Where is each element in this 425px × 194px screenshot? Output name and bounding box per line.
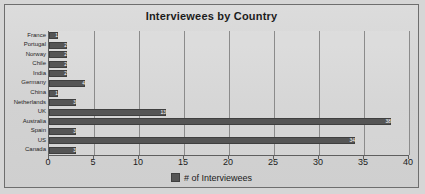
- bar-value-label: 1: [49, 90, 59, 97]
- category-label: UK: [4, 108, 46, 114]
- bar-value-label: 3: [49, 99, 77, 106]
- x-tick-mark: [408, 155, 409, 159]
- bar-value-label: 2: [49, 51, 68, 58]
- gridline: [364, 31, 365, 155]
- bar-value-label: 1: [49, 32, 59, 39]
- x-tick-mark: [48, 155, 49, 159]
- category-label: Chile: [4, 60, 46, 66]
- x-tick-mark: [273, 155, 274, 159]
- bar-value-label: 4: [49, 80, 86, 87]
- x-tick-mark: [363, 155, 364, 159]
- plot-area: 1222241313383343: [48, 31, 409, 156]
- category-label: Netherlands: [4, 99, 46, 105]
- category-label: France: [4, 32, 46, 38]
- category-label: China: [4, 89, 46, 95]
- x-tick-mark: [183, 155, 184, 159]
- category-label: Canada: [4, 146, 46, 152]
- legend-swatch-icon: [171, 173, 180, 182]
- bar-value-label: 13: [49, 109, 167, 116]
- bar-value-label: 2: [49, 70, 68, 77]
- chart-container: Interviewees by Country FrancePortugalNo…: [4, 4, 419, 188]
- chart-title: Interviewees by Country: [5, 10, 418, 22]
- chart-legend: # of Interviewees: [5, 173, 418, 183]
- gridline: [409, 31, 410, 155]
- x-tick-mark: [138, 155, 139, 159]
- category-label: Spain: [4, 127, 46, 133]
- category-label: US: [4, 137, 46, 143]
- category-label: Germany: [4, 79, 46, 85]
- bar-value-label: 38: [49, 118, 392, 125]
- bar-value-label: 2: [49, 42, 68, 49]
- bar-value-label: 3: [49, 128, 77, 135]
- legend-label: # of Interviewees: [184, 173, 252, 183]
- bar-value-label: 3: [49, 147, 77, 154]
- category-label: Australia: [4, 118, 46, 124]
- x-tick-mark: [93, 155, 94, 159]
- bar-value-label: 34: [49, 137, 356, 144]
- bar-value-label: 2: [49, 61, 68, 68]
- category-axis-labels: FrancePortugalNorwayChileIndiaGermanyChi…: [5, 31, 46, 155]
- x-tick-mark: [318, 155, 319, 159]
- category-label: India: [4, 70, 46, 76]
- category-label: Norway: [4, 51, 46, 57]
- x-tick-mark: [228, 155, 229, 159]
- category-label: Portugal: [4, 41, 46, 47]
